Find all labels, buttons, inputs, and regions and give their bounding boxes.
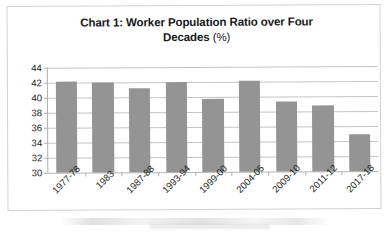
bar-1977-78[interactable] (56, 81, 78, 173)
bar-2004-05[interactable] (239, 81, 261, 172)
bar-1993-94[interactable] (166, 82, 188, 172)
bar-slot (194, 67, 231, 172)
y-axis-label: 42 (31, 77, 42, 88)
bar-slot (268, 66, 305, 171)
x-label-slot: 2011-12 (305, 172, 342, 212)
x-label-slot: 1983 (85, 173, 122, 213)
y-axis-label: 40 (31, 92, 42, 103)
chart-title: Chart 1: Worker Population Ratio over Fo… (32, 14, 362, 46)
y-tick-32 (44, 158, 48, 159)
x-label-slot: 2009-10 (268, 172, 305, 212)
x-label-slot: 1999-00 (195, 173, 232, 213)
y-axis-label: 36 (31, 122, 42, 133)
y-tick-40 (44, 98, 48, 99)
y-tick-38 (44, 113, 48, 114)
x-label-slot: 1977-78 (48, 174, 85, 214)
x-label-slot: 2004-05 (232, 173, 269, 213)
chart-screenshot: Chart 1: Worker Population Ratio over Fo… (0, 0, 389, 233)
bar-1983[interactable] (92, 82, 114, 172)
bar-1999-00[interactable] (202, 98, 224, 172)
y-axis-label: 30 (32, 167, 43, 178)
chart-title-line2: Decades (163, 31, 210, 43)
chart-title-line1: Chart 1: Worker Population Ratio over Fo… (80, 15, 313, 28)
y-axis-label: 34 (32, 137, 43, 148)
bar-slot (84, 67, 121, 172)
bar-1987-88[interactable] (129, 88, 151, 172)
bar-slot (48, 68, 85, 173)
x-label-slot: 1993-94 (158, 173, 195, 213)
y-axis-label: 44 (31, 62, 42, 73)
x-axis-labels: 1977-7819831987-881993-941999-002004-052… (48, 172, 378, 214)
scan-artifact-secondary (150, 224, 270, 229)
y-tick-34 (44, 143, 48, 144)
y-tick-44 (44, 68, 48, 69)
x-label-slot: 2017-18 (342, 172, 379, 212)
y-tick-42 (44, 83, 48, 84)
y-axis-label: 32 (32, 152, 43, 163)
bar-slot (341, 66, 378, 171)
chart-title-unit-value: (%) (213, 31, 231, 43)
bar-slot (121, 67, 158, 172)
y-tick-36 (44, 128, 48, 129)
bar-slot (305, 66, 342, 171)
bar-slot (158, 67, 195, 172)
x-label-slot: 1987-88 (122, 173, 159, 213)
bar-series (48, 66, 379, 173)
chart-frame: Chart 1: Worker Population Ratio over Fo… (7, 4, 382, 211)
y-axis-label: 38 (31, 107, 42, 118)
plot-area: 4442403836343230 (48, 66, 379, 173)
bar-slot (231, 67, 268, 172)
